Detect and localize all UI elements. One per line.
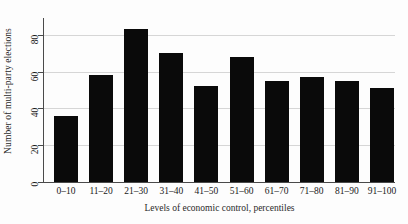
- plot-area: [44, 20, 395, 182]
- bar: [335, 81, 359, 182]
- x-axis-tick-label: 41–50: [186, 186, 226, 197]
- bar: [265, 81, 289, 182]
- x-axis-tick-label: 71–80: [292, 186, 332, 197]
- x-axis-tick-label: 61–70: [257, 186, 297, 197]
- x-axis-tick-label: 51–60: [222, 186, 262, 197]
- bar: [194, 86, 218, 182]
- bar: [159, 53, 183, 182]
- y-axis-tick-label: 20: [12, 140, 36, 150]
- x-axis-tick-label: 21–30: [116, 186, 156, 197]
- y-axis-tick-label-text: 0: [31, 182, 41, 204]
- chart-screenshot: Number of multi-party elections Levels o…: [0, 0, 408, 224]
- x-axis-tick-label: 0–10: [46, 186, 86, 197]
- y-axis-tick-label-text: 20: [31, 145, 41, 167]
- bar: [124, 29, 148, 182]
- y-axis-tick-label: 60: [12, 67, 36, 77]
- gridline: [44, 35, 395, 36]
- y-axis-tick-label-text: 40: [31, 108, 41, 130]
- y-axis-tick-label-text: 80: [31, 34, 41, 56]
- bar: [300, 77, 324, 182]
- gridline: [44, 72, 395, 73]
- x-axis-tick-label: 11–20: [81, 186, 121, 197]
- x-axis-title: Levels of economic control, percentiles: [44, 203, 395, 213]
- bar: [54, 116, 78, 182]
- y-axis-tick-label: 80: [12, 30, 36, 40]
- x-axis-tick-label: 91–100: [362, 186, 402, 197]
- x-axis-tick-label: 81–90: [327, 186, 367, 197]
- bar: [370, 88, 394, 182]
- y-axis-tick-label-text: 60: [31, 71, 41, 93]
- y-axis-tick-label: 0: [12, 177, 36, 187]
- bar: [89, 75, 113, 182]
- bar: [230, 57, 254, 182]
- y-axis-title: Number of multi-party elections: [0, 0, 16, 182]
- x-axis-line: [38, 182, 395, 183]
- y-axis-title-text: Number of multi-party elections: [3, 28, 13, 154]
- y-axis-tick-label: 40: [12, 103, 36, 113]
- x-axis-tick-label: 31–40: [151, 186, 191, 197]
